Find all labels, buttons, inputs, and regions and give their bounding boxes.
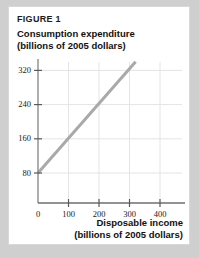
x-axis-title: Disposable income (billions of 2005 doll… <box>33 217 183 241</box>
figure-card: FIGURE 1 Consumption expenditure (billio… <box>8 6 190 245</box>
consumption-function-line <box>38 62 136 173</box>
y-tick-label-320: 320 <box>5 65 31 75</box>
vertical-gridlines <box>69 62 161 203</box>
y-tick-label-160: 160 <box>5 133 31 143</box>
y-tick-label-80: 80 <box>5 168 31 178</box>
x-axis-title-line-2: (billions of 2005 dollars) <box>33 229 183 241</box>
x-axis-title-line-1: Disposable income <box>96 217 183 228</box>
y-tick-label-240: 240 <box>5 99 31 109</box>
